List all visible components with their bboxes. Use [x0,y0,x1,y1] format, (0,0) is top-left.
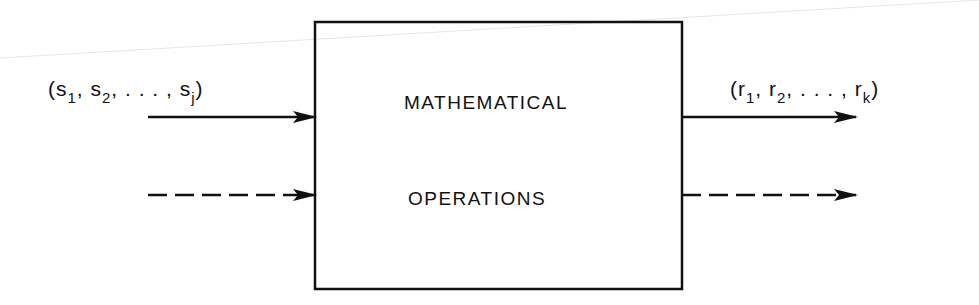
input-label: (s1, s2, . . . , sj) [48,77,204,106]
diagram-canvas: MATHEMATICAL OPERATIONS (s1, s2, . . . ,… [0,0,979,305]
box-label-line1: MATHEMATICAL [404,92,568,113]
scan-artifact-line [0,0,979,58]
operations-box [315,22,682,289]
output-label: (r1, r2, . . . , rk) [730,77,879,106]
box-label-line2: OPERATIONS [408,188,546,209]
